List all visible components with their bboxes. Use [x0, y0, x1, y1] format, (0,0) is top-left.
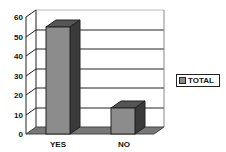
svg-text:40: 40 — [14, 52, 23, 61]
x-axis-labels: YES NO — [50, 140, 130, 149]
y-axis-labels: 60 50 40 30 20 10 0 — [14, 13, 23, 139]
legend-swatch — [179, 77, 186, 84]
chart-legend: TOTAL — [176, 74, 220, 87]
bar-yes — [46, 20, 80, 134]
svg-text:0: 0 — [19, 130, 24, 139]
svg-text:YES: YES — [50, 140, 67, 149]
svg-text:20: 20 — [14, 91, 23, 100]
legend-label: TOTAL — [188, 76, 214, 85]
svg-text:30: 30 — [14, 72, 23, 81]
svg-text:60: 60 — [14, 13, 23, 22]
svg-text:10: 10 — [14, 111, 23, 120]
bar-no — [111, 101, 145, 134]
svg-text:NO: NO — [118, 140, 130, 149]
svg-text:50: 50 — [14, 33, 23, 42]
